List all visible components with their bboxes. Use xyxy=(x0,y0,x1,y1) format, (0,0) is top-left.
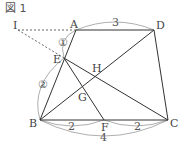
measure-FC: 2 xyxy=(134,120,141,133)
ratio-AE: ① xyxy=(58,36,68,49)
point-E-label: E xyxy=(53,53,61,66)
point-D-label: D xyxy=(156,19,165,32)
point-C-label: C xyxy=(170,117,178,130)
point-G-label: G xyxy=(78,91,87,104)
segment-DC xyxy=(154,30,168,120)
measure-BC: 4 xyxy=(100,131,107,144)
point-I-label: I xyxy=(13,19,17,32)
measure-AD: 3 xyxy=(112,16,119,29)
figure-title: 図 1 xyxy=(5,2,27,15)
point-H-label: H xyxy=(92,62,102,75)
ratio-EB: ② xyxy=(38,78,48,91)
geometry-diagram: 図 1 I A D E H G B F C 3 2 2 4 ① ② xyxy=(0,0,184,150)
measure-BF: 2 xyxy=(68,120,75,133)
point-A-label: A xyxy=(69,18,79,31)
point-B-label: B xyxy=(29,117,37,130)
